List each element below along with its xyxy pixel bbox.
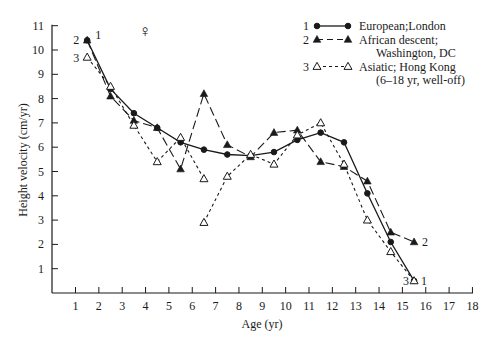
circle-marker (314, 23, 320, 29)
filled-triangle-marker (364, 177, 372, 184)
open-triangle-marker (177, 133, 185, 140)
x-axis-title: Age (yr) (242, 317, 283, 331)
series-start-label: 3 (73, 51, 79, 65)
filled-triangle-marker (387, 228, 395, 235)
series-3 (87, 57, 414, 281)
y-tick-label: 8 (38, 92, 44, 106)
series-end-label: 1 (421, 274, 427, 288)
open-triangle-marker (153, 158, 161, 165)
x-tick-label: 10 (280, 299, 292, 313)
open-triangle-marker (313, 62, 321, 69)
circle-marker (365, 191, 371, 197)
circle-marker (271, 149, 277, 155)
x-tick-label: 5 (166, 299, 172, 313)
x-tick-label: 17 (443, 299, 455, 313)
circle-marker (318, 130, 324, 136)
circle-marker (345, 23, 351, 29)
x-tick-label: 18 (466, 299, 478, 313)
open-triangle-marker (200, 175, 208, 182)
series-line (87, 40, 414, 281)
x-tick-label: 2 (96, 299, 102, 313)
open-triangle-marker (363, 216, 371, 223)
open-triangle-marker (387, 247, 395, 254)
filled-triangle-marker (313, 36, 321, 43)
open-triangle-marker (83, 53, 91, 60)
filled-triangle-marker (177, 165, 185, 172)
series-start-label: 1 (95, 28, 101, 42)
y-tick-label: 7 (38, 116, 44, 130)
x-tick-label: 13 (350, 299, 362, 313)
x-tick-label: 7 (213, 299, 219, 313)
legend-item-2: 2African descent;Washington, DC (303, 33, 456, 61)
series-start-label: 2 (73, 33, 79, 47)
series-1-markers (84, 37, 417, 283)
x-tick-label: 12 (326, 299, 338, 313)
legend-number: 2 (303, 33, 309, 47)
open-triangle-marker (340, 160, 348, 167)
y-tick-label: 10 (32, 43, 44, 57)
legend-item-1: 1European;London (303, 19, 446, 33)
series-end-label: 2 (422, 235, 428, 249)
open-triangle-marker (200, 218, 208, 225)
filled-triangle-marker (107, 92, 115, 99)
y-axis-title: Height velocity (cm/yr) (16, 103, 30, 216)
x-tick-label: 9 (259, 299, 265, 313)
y-tick-label: 11 (32, 19, 44, 33)
series-1 (87, 40, 414, 281)
circle-marker (131, 110, 137, 116)
open-triangle-marker (270, 160, 278, 167)
legend-label: (6–18 yr, well-off) (376, 73, 465, 87)
filled-triangle-marker (223, 141, 231, 148)
legend-number: 3 (303, 60, 309, 74)
series-end-label: 3 (403, 274, 409, 288)
x-tick-label: 6 (189, 299, 195, 313)
x-tick-label: 15 (396, 299, 408, 313)
legend-item-3: 3Asiatic; Hong Kong(6–18 yr, well-off) (303, 60, 465, 88)
open-triangle-marker (317, 119, 325, 126)
legend-label: Asiatic; Hong Kong (359, 60, 456, 74)
open-triangle-marker (344, 62, 352, 69)
circle-marker (224, 152, 230, 158)
x-tick-label: 8 (236, 299, 242, 313)
legend: 1European;London2African descent;Washing… (303, 19, 465, 87)
height-velocity-chart: 1234567891011123456789101112131415161718… (0, 0, 498, 349)
circle-marker (201, 147, 207, 153)
series-3-markers (83, 53, 418, 284)
legend-label: Washington, DC (376, 46, 456, 60)
legend-number: 1 (303, 19, 309, 33)
filled-triangle-marker (270, 129, 278, 136)
x-tick-label: 4 (143, 299, 149, 313)
circle-marker (341, 140, 347, 146)
female-symbol: ♀ (139, 22, 152, 41)
x-tick-label: 14 (373, 299, 385, 313)
x-tick-label: 1 (73, 299, 79, 313)
x-tick-label: 16 (420, 299, 432, 313)
x-tick-label: 3 (119, 299, 125, 313)
filled-triangle-marker (344, 36, 352, 43)
legend-label: African descent; (359, 33, 438, 47)
y-tick-label: 4 (38, 189, 44, 203)
y-tick-label: 1 (38, 262, 44, 276)
y-tick-label: 3 (38, 213, 44, 227)
y-tick-label: 6 (38, 140, 44, 154)
x-tick-label: 11 (303, 299, 315, 313)
y-tick-label: 5 (38, 165, 44, 179)
y-tick-label: 9 (38, 67, 44, 81)
circle-marker (388, 239, 394, 245)
y-tick-label: 2 (38, 237, 44, 251)
filled-triangle-marker (200, 90, 208, 97)
legend-label: European;London (359, 19, 446, 33)
